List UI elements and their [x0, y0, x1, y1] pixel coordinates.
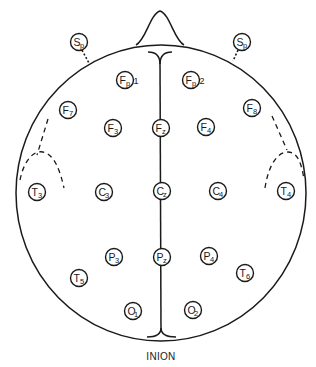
electrode-fz: Fz	[153, 120, 170, 137]
electrode-f7: F7	[60, 102, 77, 119]
sp-left-connector	[82, 50, 89, 63]
electrode-o1: O1	[125, 303, 142, 320]
electrode-t4: T4	[278, 183, 295, 200]
electrode-label: F	[63, 104, 69, 116]
electrode-label: F	[201, 121, 207, 133]
electrode-subscript: 1	[134, 310, 138, 319]
electrode-subscript: 4	[219, 190, 223, 199]
electrode-label: F	[247, 102, 253, 114]
left-ear-arc	[20, 119, 64, 188]
electrode-p4: P4	[201, 248, 218, 265]
electrode-t3: T3	[29, 184, 46, 201]
electrode-subscript: 5	[80, 277, 84, 286]
electrode-t5: T5	[71, 270, 88, 287]
electrode-fp2: Fp2	[183, 72, 205, 89]
electrode-fp1: Fp1	[117, 72, 139, 89]
electrode-f3: F3	[105, 120, 122, 137]
electrode-subscript: z	[162, 127, 166, 136]
electrode-number: 2	[200, 76, 205, 86]
electrode-number: 1	[134, 76, 139, 86]
electrode-subscript: 3	[115, 256, 119, 265]
electrode-subscript: p	[80, 41, 84, 50]
electrode-subscript: 4	[207, 126, 211, 135]
electrode-c4: C4	[210, 183, 227, 200]
electrode-t6: T6	[237, 265, 254, 282]
electrode-subscript: 3	[105, 191, 109, 200]
electrode-subscript: p	[192, 79, 196, 88]
electrode-f4: F4	[198, 119, 215, 136]
electrode-subscript: 6	[246, 272, 250, 281]
electrode-subscript: 3	[38, 191, 42, 200]
electrode-pz: Pz	[154, 249, 171, 266]
electrode-subscript: 2	[194, 309, 198, 318]
electrode-subscript: 3	[114, 127, 118, 136]
electrode-subscript: z	[163, 190, 167, 199]
electrode-subscript: 4	[287, 190, 291, 199]
electrode-subscript: z	[163, 256, 167, 265]
electrode-f8: F8	[244, 100, 261, 117]
electrode-subscript: p	[243, 41, 247, 50]
right-ear-arc	[265, 116, 304, 188]
electrode-subscript: 7	[69, 109, 73, 118]
midline-bottom-fork	[147, 328, 176, 337]
electrode-subscript: p	[126, 79, 130, 88]
electrode-cz: Cz	[154, 183, 171, 200]
electrode-c3: C3	[96, 184, 113, 201]
electrode-sp-right: Sp	[234, 34, 251, 51]
electrode-label: F	[120, 74, 126, 86]
electrode-o2: O2	[185, 302, 202, 319]
nose-outline	[136, 11, 184, 45]
sp-right-connector	[233, 50, 238, 61]
electrode-label: F	[156, 122, 162, 134]
inion-label: INION	[146, 351, 175, 362]
electrode-sp-left: Sp	[71, 34, 88, 51]
eeg-electrode-diagram: SpSpFp1Fp2F7F3FzF4F8T3C3CzC4T4P3PzP4T5T6…	[0, 0, 316, 367]
electrode-label: F	[108, 122, 114, 134]
electrode-p3: P3	[106, 249, 123, 266]
electrode-label: F	[186, 74, 192, 86]
electrode-subscript: 8	[253, 107, 257, 116]
electrode-subscript: 4	[210, 255, 214, 264]
